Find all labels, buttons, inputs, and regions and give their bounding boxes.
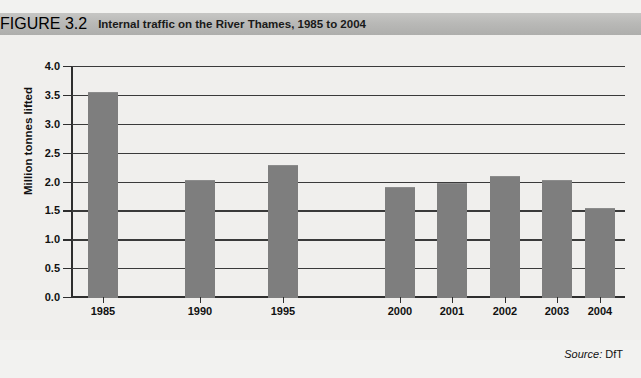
x-axis-tick-label: 2001	[422, 305, 482, 317]
x-axis-tick	[557, 297, 558, 303]
bar	[585, 208, 615, 298]
bar-chart: Million tonnes lifted 0.00.51.01.52.02.5…	[0, 35, 641, 340]
y-axis-tick	[63, 210, 72, 211]
y-axis-tick-label: 0.0	[30, 291, 60, 303]
source-value: DfT	[605, 348, 623, 360]
y-axis-tick	[63, 153, 72, 154]
bar	[185, 180, 215, 298]
bar	[268, 165, 298, 298]
y-axis-tick-label: 0.5	[30, 262, 60, 274]
x-axis-tick	[505, 297, 506, 303]
y-axis-tick	[63, 239, 72, 240]
y-axis-tick	[63, 124, 72, 125]
gridline	[71, 95, 625, 96]
y-axis-tick-label: 2.0	[30, 176, 60, 188]
source-note: Source: DfT	[564, 348, 623, 360]
x-axis-tick	[103, 297, 104, 303]
gridline	[71, 124, 625, 125]
x-axis-tick-label: 1990	[170, 305, 230, 317]
figure-title-bar: FIGURE 3.2 Internal traffic on the River…	[0, 13, 641, 35]
x-axis-tick	[283, 297, 284, 303]
x-axis-tick-label: 2000	[370, 305, 430, 317]
y-axis-tick-label: 1.5	[30, 204, 60, 216]
x-axis-tick-label: 2002	[475, 305, 535, 317]
x-axis-tick	[400, 297, 401, 303]
x-axis-tick	[452, 297, 453, 303]
x-axis-tick-label: 1985	[73, 305, 133, 317]
y-axis-tick-label: 2.5	[30, 147, 60, 159]
y-axis-tick	[63, 66, 72, 67]
x-axis-tick	[200, 297, 201, 303]
bar	[437, 183, 467, 298]
y-axis-tick-label: 1.0	[30, 233, 60, 245]
y-axis-tick	[63, 95, 72, 96]
figure-title-text: Internal traffic on the River Thames, 19…	[98, 18, 366, 30]
bar	[490, 176, 520, 298]
y-axis-tick-label: 3.5	[30, 89, 60, 101]
x-axis-tick-label: 1995	[253, 305, 313, 317]
x-axis-tick	[600, 297, 601, 303]
bar	[385, 187, 415, 298]
bar	[542, 180, 572, 298]
y-axis-tick	[63, 297, 72, 298]
gridline	[71, 66, 625, 67]
y-axis-tick-label: 4.0	[30, 60, 60, 72]
y-axis-tick	[63, 182, 72, 183]
bar	[88, 92, 118, 298]
source-label: Source:	[564, 348, 602, 360]
y-axis-tick-label: 3.0	[30, 118, 60, 130]
gridline	[71, 153, 625, 154]
y-axis-tick	[63, 268, 72, 269]
x-axis-tick-label: 2004	[570, 305, 630, 317]
figure-number-label: FIGURE 3.2	[0, 15, 87, 33]
